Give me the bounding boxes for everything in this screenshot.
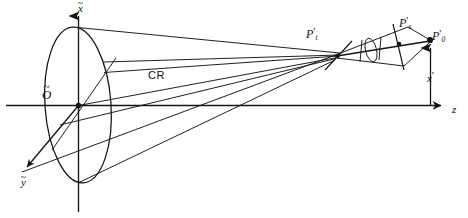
sagittal-focus-label: P's — [399, 15, 411, 31]
chief-ray-label: CR — [148, 70, 165, 81]
ray-diagram-canvas — [0, 0, 468, 218]
tangential-focus-label: P't — [306, 26, 318, 42]
figure-container: ~x ~y z ~O CR P't P's P'0 x' — [0, 0, 468, 218]
origin-tilde-accent: ~ — [44, 82, 50, 93]
ray-upper-envelope — [78, 28, 340, 54]
z-axis-label-text: z — [452, 103, 456, 115]
sagittal-focus-point — [397, 42, 402, 47]
sagittal-focus-subscript: s — [408, 22, 411, 31]
sagittal-ray-lower — [404, 42, 430, 66]
ray-skew-lower — [22, 54, 338, 172]
image-height-prime-mark: ' — [432, 70, 434, 81]
beam-edge-lower — [337, 58, 404, 66]
astigmatic-beam — [337, 27, 430, 66]
y-axis-line — [27, 106, 79, 168]
image-point-subscript: 0 — [441, 35, 445, 44]
ray-lower-envelope — [78, 60, 335, 183]
beam-rib-left — [360, 40, 362, 62]
z-axis-label: z — [452, 104, 456, 115]
x-axis-label: ~x — [78, 3, 83, 14]
ray-through-origin — [79, 58, 338, 106]
ray-pupil-oblique — [52, 58, 116, 150]
ray-lower-mid — [60, 59, 336, 126]
origin-label: ~O — [42, 88, 51, 101]
chief-ray-label-text: CR — [148, 69, 165, 81]
tangential-focus-subscript: t — [315, 33, 317, 42]
image-height-label: x' — [427, 71, 434, 84]
y-tilde-accent: ~ — [21, 172, 26, 182]
y-axis-label: ~y — [21, 177, 26, 188]
image-point-label: P'0 — [432, 28, 445, 44]
sagittal-converge-rays — [404, 27, 430, 66]
x-tilde-accent: ~ — [78, 0, 83, 7]
